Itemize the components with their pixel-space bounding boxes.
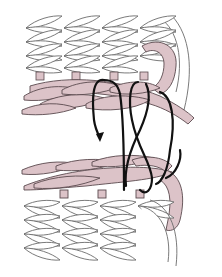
seaming-diagram bbox=[0, 0, 222, 277]
diagram-canvas bbox=[0, 0, 222, 277]
bottom-fabric bbox=[24, 200, 177, 266]
